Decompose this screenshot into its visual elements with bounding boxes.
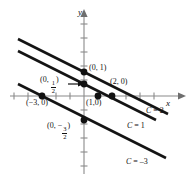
point-label-0-neg3half-suffix: ) [67,121,70,130]
graph-figure: y x (0, 1) (2, 0) (1,0) (−3, 0) (0, 12) … [0,0,191,182]
point-label-0-half-suffix: ) [56,75,59,84]
point-label-0-half-prefix: (0, [40,75,51,84]
y-axis-label: y [78,8,82,17]
point-label-0-half: (0, 12) [40,76,59,94]
fraction-denominator: 2 [62,133,67,141]
curve-label-cneg3-val: = –3 [133,157,148,166]
point-label-0-1: (0, 1) [89,64,106,72]
point-label-2-0: (2, 0) [110,78,127,86]
x-axis-label: x [166,99,170,108]
curve-label-c1-var: C [127,121,132,130]
curve-label-c1: C = 1 [127,122,145,130]
curve-label-cneg3: C = –3 [126,158,148,166]
point-label-0-neg3half: (0, −32) [47,122,70,140]
point-label-0-neg3half-prefix: (0, − [47,121,62,130]
point-marker-2-0 [109,93,116,100]
point-label-neg3-0: (−3, 0) [26,99,48,107]
curve-label-c2-val: = 2 [153,106,164,115]
point-label-1-0: (1,0) [86,99,101,107]
point-marker-0-1 [81,69,88,76]
curve-label-c1-val: = 1 [134,121,145,130]
curve-label-c2-var: C [146,106,151,115]
curve-label-cneg3-var: C [126,157,131,166]
curve-label-c2: C = 2 [146,107,164,115]
fraction-denominator: 2 [51,87,56,95]
graph-canvas [0,0,191,182]
point-marker-0-neg3half [81,117,88,124]
x-axis-arrowhead [178,92,186,99]
